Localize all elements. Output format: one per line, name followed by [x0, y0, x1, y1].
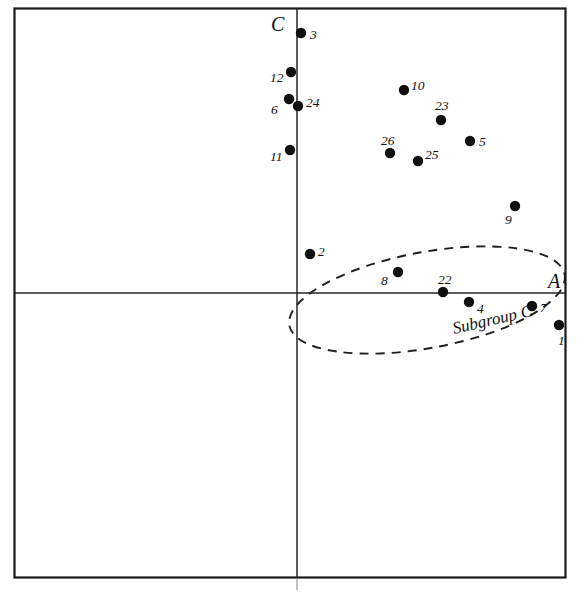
data-point-label: 25 [425, 147, 439, 162]
data-point-marker [527, 301, 537, 311]
data-point-label: 6 [271, 102, 278, 117]
data-point-marker [285, 145, 295, 155]
horizontal-axis-label: A [546, 270, 561, 292]
data-point-marker [385, 148, 395, 158]
data-point-label: 12 [270, 70, 284, 85]
data-point-label: 23 [435, 98, 449, 113]
data-point-label: 1 [558, 333, 565, 348]
data-point-marker [510, 201, 520, 211]
vertical-axis-label: C [271, 13, 285, 35]
data-point-label: 24 [306, 95, 320, 110]
data-point-label: 8 [381, 273, 388, 288]
data-point-marker [464, 297, 474, 307]
data-point-label: 2 [318, 244, 325, 259]
data-point-label: 3 [309, 27, 317, 42]
data-point-label: 9 [505, 212, 512, 227]
data-point-marker [393, 267, 403, 277]
scatter-plot-figure: C A Subgroup C 3 12 6 24 11 [0, 0, 585, 601]
data-point-marker [413, 156, 423, 166]
plot-canvas: C A Subgroup C 3 12 6 24 11 [0, 0, 585, 601]
data-point-marker [286, 67, 296, 77]
data-point-label: 10 [411, 78, 425, 93]
data-point-marker [305, 249, 315, 259]
data-point-marker [438, 287, 448, 297]
data-point-marker [436, 115, 446, 125]
data-point-label: 26 [381, 133, 395, 148]
data-point-marker [296, 28, 306, 38]
data-point-marker [284, 94, 294, 104]
data-point-marker [293, 101, 303, 111]
data-point-label: 4 [477, 301, 484, 316]
data-point-label: 11 [270, 149, 283, 164]
data-point-marker [399, 85, 409, 95]
data-point-label: 22 [438, 272, 452, 287]
data-point-marker [465, 136, 475, 146]
data-point-marker [554, 320, 564, 330]
data-point-label: 5 [479, 134, 486, 149]
